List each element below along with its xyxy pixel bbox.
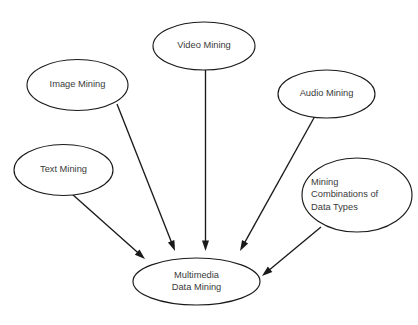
diagram-node-mining-combinations[interactable]: MiningCombinations ofData Types: [302, 158, 412, 232]
diagram-node-image-mining[interactable]: Image Mining: [27, 60, 128, 111]
multimedia-data-mining-diagram: Text MiningImage MiningVideo MiningAudio…: [0, 0, 418, 325]
diagram-edge: [240, 116, 315, 251]
diagram-canvas: Text MiningImage MiningVideo MiningAudio…: [0, 0, 418, 325]
node-label-line: Data Types: [311, 202, 358, 212]
diagram-node-audio-mining[interactable]: Audio Mining: [278, 70, 375, 118]
node-label-line: Mining: [311, 177, 338, 187]
edge-line: [269, 227, 321, 270]
node-label-line: Image Mining: [50, 79, 106, 89]
diagram-node-multimedia-data-mining[interactable]: MultimediaData Mining: [133, 258, 260, 305]
edge-line: [244, 116, 315, 243]
diagram-edge: [72, 194, 145, 259]
edge-line: [117, 104, 172, 243]
diagram-node-video-mining[interactable]: Video Mining: [153, 22, 255, 70]
diagram-edge: [262, 227, 321, 276]
node-label-line: Data Mining: [172, 282, 222, 292]
arrow-head-icon: [168, 240, 175, 251]
diagram-edge: [117, 104, 175, 251]
edge-line: [72, 194, 138, 253]
diagram-node-text-mining[interactable]: Text Mining: [14, 145, 113, 196]
node-label-line: Audio Mining: [300, 88, 354, 98]
arrow-head-icon: [202, 241, 209, 252]
node-label-line: Text Mining: [40, 164, 87, 174]
node-label-line: Combinations of: [311, 189, 379, 199]
diagram-edge: [202, 70, 209, 251]
nodes-layer: Text MiningImage MiningVideo MiningAudio…: [14, 22, 412, 305]
node-label-line: Multimedia: [174, 270, 220, 280]
node-label-line: Video Mining: [177, 40, 231, 50]
arrow-head-icon: [240, 240, 248, 251]
